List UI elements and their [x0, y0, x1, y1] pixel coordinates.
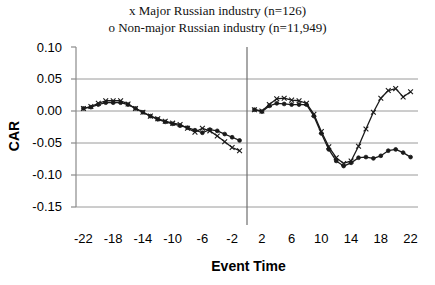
data-point-marker-o	[200, 131, 204, 135]
series-post-x	[252, 86, 413, 166]
data-point-marker-o	[364, 155, 368, 159]
data-point-marker-o	[238, 139, 242, 143]
y-tick-label: 0.05	[14, 72, 62, 85]
y-tick-label: -0.10	[14, 168, 62, 181]
data-point-marker-o	[275, 101, 279, 105]
data-point-marker-o	[357, 156, 361, 160]
data-point-marker-o	[342, 164, 346, 168]
data-point-marker-x	[408, 89, 413, 94]
data-point-marker-x	[401, 95, 406, 100]
data-point-marker-o	[163, 120, 167, 124]
data-point-marker-o	[148, 114, 152, 118]
data-point-marker-x	[215, 134, 220, 139]
data-point-marker-o	[282, 102, 286, 106]
data-point-marker-o	[253, 108, 257, 112]
data-point-marker-o	[401, 151, 405, 155]
data-point-marker-x	[364, 127, 369, 132]
series-line	[254, 103, 410, 166]
data-point-marker-o	[260, 110, 264, 114]
data-point-marker-o	[297, 103, 301, 107]
data-point-marker-o	[409, 155, 413, 159]
series-pre-x	[81, 98, 242, 153]
data-point-marker-o	[327, 148, 331, 152]
data-point-marker-o	[134, 107, 138, 111]
y-tick-label: -0.05	[14, 136, 62, 149]
data-point-marker-o	[82, 107, 86, 111]
data-point-marker-o	[267, 104, 271, 108]
data-point-marker-x	[230, 145, 235, 150]
data-point-marker-o	[126, 103, 130, 107]
data-point-marker-o	[394, 148, 398, 152]
data-point-marker-o	[171, 122, 175, 126]
data-point-marker-o	[312, 114, 316, 118]
data-point-marker-o	[386, 149, 390, 153]
data-point-marker-o	[371, 156, 375, 160]
data-point-marker-o	[223, 132, 227, 136]
chart-legend: x Major Russian industry (n=126) o Non-m…	[0, 2, 435, 36]
legend-entry-nonmajor: o Non-major Russian industry (n=11,949)	[0, 19, 435, 36]
data-point-marker-o	[305, 103, 309, 107]
data-point-marker-o	[104, 101, 108, 105]
data-point-marker-x	[356, 144, 361, 149]
data-point-marker-o	[111, 101, 115, 105]
data-point-marker-o	[290, 103, 294, 107]
y-tick-label: 0.10	[14, 41, 62, 54]
y-tick-label: -0.15	[14, 200, 62, 213]
data-point-marker-o	[334, 159, 338, 163]
data-point-marker-x	[378, 96, 383, 101]
data-point-marker-o	[208, 128, 212, 132]
data-point-marker-o	[186, 126, 190, 130]
data-point-marker-o	[193, 128, 197, 132]
x-axis-label: Event Time	[76, 258, 421, 274]
data-point-marker-o	[178, 124, 182, 128]
data-point-marker-o	[96, 103, 100, 107]
data-point-marker-o	[141, 110, 145, 114]
data-point-marker-x	[237, 148, 242, 153]
data-point-marker-o	[379, 154, 383, 158]
data-point-marker-o	[349, 161, 353, 165]
data-point-marker-o	[319, 132, 323, 136]
data-point-marker-o	[215, 129, 219, 133]
legend-entry-major: x Major Russian industry (n=126)	[0, 2, 435, 19]
data-point-marker-o	[89, 105, 93, 109]
data-point-marker-o	[119, 101, 123, 105]
x-tick-label: 22	[394, 232, 428, 245]
data-point-marker-o	[230, 135, 234, 139]
chart-figure: x Major Russian industry (n=126) o Non-m…	[0, 0, 435, 285]
data-point-marker-o	[156, 117, 160, 121]
y-axis-tick-labels: 0.10 0.05 0.00 -0.05 -0.10 -0.15	[14, 0, 62, 285]
y-tick-label: 0.00	[14, 104, 62, 117]
